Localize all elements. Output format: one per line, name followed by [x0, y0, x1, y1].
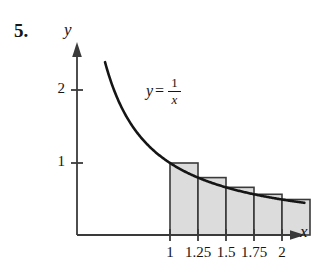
equation-fraction: 1 x	[168, 76, 181, 106]
equation-equals: =	[155, 82, 164, 100]
y-axis-label: y	[64, 20, 72, 40]
curve-equation-label: y = 1 x	[146, 76, 181, 106]
x-tick-label: 1.25	[185, 244, 211, 261]
x-tick-label: 1.5	[217, 244, 236, 261]
riemann-rectangle	[254, 194, 282, 235]
riemann-sum-figure	[0, 0, 319, 280]
fraction-numerator: 1	[168, 76, 181, 90]
fraction-denominator: x	[169, 93, 181, 107]
x-tick-label: 1.75	[241, 244, 267, 261]
equation-lhs: y	[146, 82, 153, 100]
x-tick-label: 2	[278, 244, 286, 261]
x-axis-label: x	[300, 222, 308, 242]
problem-number: 5.	[14, 20, 28, 42]
riemann-rectangle	[170, 163, 198, 235]
y-tick-label: 2	[45, 80, 65, 97]
x-tick-label: 1	[166, 244, 174, 261]
y-axis-arrowhead	[72, 42, 82, 57]
y-tick-label: 1	[45, 153, 65, 170]
